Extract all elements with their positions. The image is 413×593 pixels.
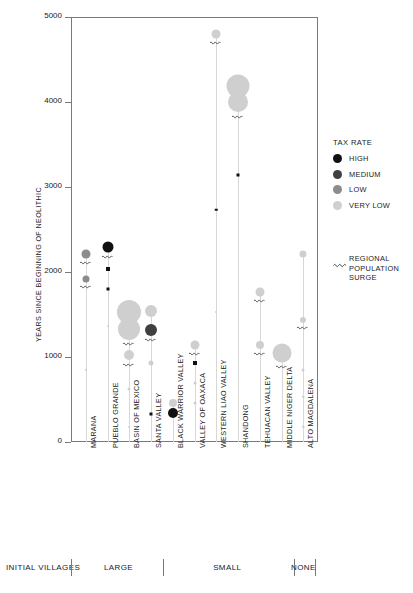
- x-axis-label: MARANA: [89, 415, 98, 448]
- surge-line-3: SURGE: [349, 273, 399, 283]
- data-point-circle: [102, 242, 113, 253]
- y-tick-label: 2000: [44, 266, 62, 275]
- data-point-circle: [193, 382, 196, 385]
- data-point-circle: [81, 250, 90, 259]
- legend-item[interactable]: VERY LOW: [333, 201, 413, 210]
- surge-squiggle-icon: [123, 341, 136, 346]
- column-stem: [86, 254, 87, 442]
- x-axis-label: WESTERN LIAO VALLEY: [219, 359, 228, 448]
- y-tick-mark: [65, 272, 71, 273]
- y-axis-title: YEARS SINCE BEGINNING OF NEOLITHIC: [34, 165, 43, 365]
- x-axis-label: PUEBLO GRANDE: [111, 382, 120, 448]
- legend-swatch-icon: [333, 170, 342, 179]
- y-tick-label: 4000: [44, 96, 62, 105]
- x-axis-label: VALLEY OF OAXACA: [198, 373, 207, 448]
- group-separator: [71, 559, 72, 576]
- data-point-circle: [272, 343, 291, 362]
- y-tick-label: 1000: [44, 351, 62, 360]
- surge-squiggle-icon: [101, 254, 114, 259]
- surge-line-1: REGIONAL: [349, 254, 399, 264]
- surge-squiggle-icon: [79, 284, 92, 289]
- y-tick-label: 0: [58, 436, 62, 445]
- surge-squiggle-icon: [123, 362, 136, 367]
- y-tick-mark: [65, 102, 71, 103]
- y-tick-mark: [65, 187, 71, 188]
- data-point-circle: [255, 287, 264, 296]
- y-tick-label: 3000: [44, 181, 62, 190]
- data-point-circle: [193, 401, 196, 404]
- surge-squiggle-icon: [253, 351, 266, 356]
- legend-swatch-icon: [333, 201, 342, 210]
- data-point-square: [106, 267, 110, 271]
- data-point-circle: [82, 275, 89, 282]
- legend-title: TAX RATE: [333, 138, 413, 147]
- data-point-circle: [256, 341, 264, 349]
- data-point-circle: [128, 426, 130, 428]
- x-axis-label: ALTO MAGDALENA: [306, 379, 315, 448]
- data-point-circle: [300, 317, 306, 323]
- legend-swatch-icon: [333, 185, 342, 194]
- legend-item-label: VERY LOW: [349, 201, 390, 210]
- legend-item-label: HIGH: [349, 154, 369, 163]
- x-axis-label: MIDDLE NIGER DELTA: [285, 367, 294, 448]
- data-point-circle: [212, 30, 221, 39]
- y-tick-mark: [65, 17, 71, 18]
- data-point-circle: [128, 388, 131, 391]
- group-label: NONE: [291, 563, 316, 572]
- legend-item-label: LOW: [349, 185, 367, 194]
- y-tick-label: 5000: [44, 11, 62, 20]
- data-point-circle: [145, 305, 157, 317]
- surge-squiggle-icon: [232, 114, 245, 119]
- data-point-square: [106, 288, 109, 291]
- data-point-square: [237, 174, 240, 177]
- data-point-circle: [302, 396, 305, 399]
- group-separator: [315, 559, 316, 576]
- surge-squiggle-icon: [79, 260, 92, 265]
- chart-root: YEARS SINCE BEGINNING OF NEOLITHIC 01000…: [0, 0, 413, 593]
- column-stem: [260, 292, 261, 442]
- column-stem: [216, 34, 217, 442]
- group-band: INITIAL VILLAGESLARGESMALLNONE: [0, 563, 413, 581]
- column-stem: [303, 254, 304, 442]
- data-point-square: [150, 412, 153, 415]
- data-point-circle: [302, 425, 305, 428]
- legend-item-label: MEDIUM: [349, 170, 381, 179]
- data-point-square: [215, 209, 218, 212]
- group-label: LARGE: [104, 563, 133, 572]
- data-point-square: [193, 361, 197, 365]
- data-point-circle: [215, 311, 217, 313]
- legend-tax-rate: TAX RATE HIGHMEDIUMLOWVERY LOW: [333, 138, 413, 216]
- data-point-circle: [228, 92, 248, 112]
- data-point-circle: [300, 251, 307, 258]
- x-axis-label: BLACK WARRIOR VALLEY: [176, 353, 185, 448]
- x-axis-label: BASIN OF MEXICO: [132, 380, 141, 448]
- column-stem: [108, 247, 109, 442]
- legend-item[interactable]: LOW: [333, 185, 413, 194]
- data-point-circle: [145, 324, 157, 336]
- column-stem: [195, 345, 196, 442]
- data-point-circle: [85, 369, 88, 372]
- surge-squiggle-icon: [253, 298, 266, 303]
- group-label: SMALL: [213, 563, 241, 572]
- group-row-label: INITIAL VILLAGES: [6, 563, 80, 572]
- data-point-circle: [149, 360, 154, 365]
- surge-squiggle-icon: [333, 262, 349, 268]
- surge-squiggle-icon: [188, 351, 201, 356]
- surge-squiggle-icon: [210, 40, 223, 45]
- legend-swatch-icon: [333, 154, 342, 163]
- legend-regional-surge: REGIONAL POPULATION SURGE: [333, 254, 413, 283]
- y-tick-mark: [65, 357, 71, 358]
- data-point-circle: [107, 325, 109, 327]
- x-axis-label: TEHUACAN VALLEY: [263, 375, 272, 448]
- data-point-circle: [302, 368, 305, 371]
- y-tick-mark: [65, 442, 71, 443]
- surge-legend-text: REGIONAL POPULATION SURGE: [349, 254, 399, 283]
- surge-squiggle-icon: [145, 337, 158, 342]
- group-separator: [163, 559, 164, 576]
- legend-item[interactable]: MEDIUM: [333, 170, 413, 179]
- legend-item[interactable]: HIGH: [333, 154, 413, 163]
- surge-line-2: POPULATION: [349, 264, 399, 274]
- data-point-circle: [124, 350, 134, 360]
- data-point-circle: [190, 341, 199, 350]
- column-stem: [238, 86, 239, 442]
